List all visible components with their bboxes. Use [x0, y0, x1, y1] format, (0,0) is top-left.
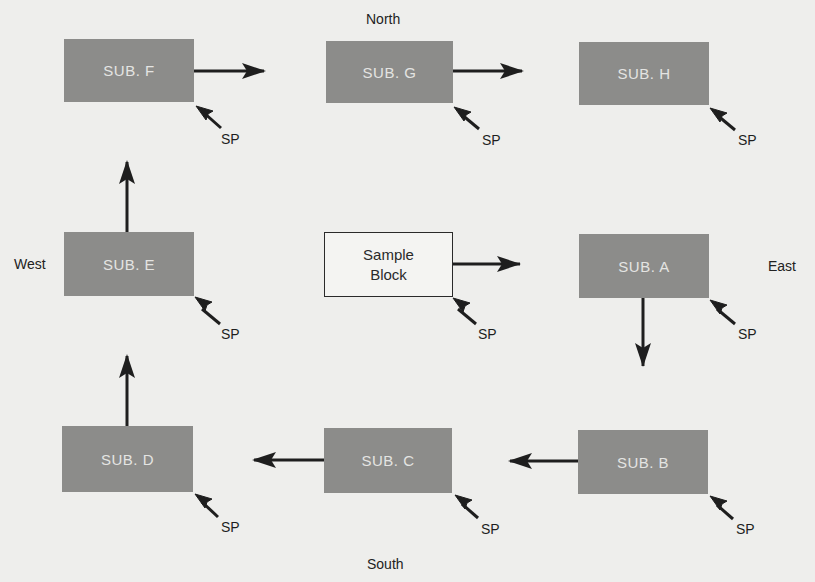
sp-pointer-b: [710, 496, 733, 519]
sp-pointer-f: [196, 106, 221, 128]
sp-pointer-c: [455, 495, 478, 518]
sp-pointer-sample: [453, 298, 476, 324]
sp-pointer-e: [195, 297, 220, 324]
flow-arrows: [0, 0, 815, 582]
sp-pointer-g: [454, 107, 479, 129]
sp-pointer-h: [710, 108, 735, 130]
sp-pointer-a: [710, 300, 735, 324]
sp-pointer-d: [195, 494, 218, 517]
sampling-diagram: North South West East SUB. F SUB. G SUB.…: [0, 0, 815, 582]
